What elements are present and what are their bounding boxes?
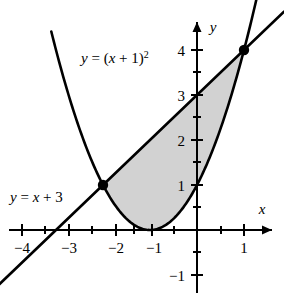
parabola-label-plusone: + 1) [115,50,143,67]
x-axis-label: x [258,201,266,217]
line-label-rest: + 3 [39,189,62,205]
shaded-region [103,50,244,230]
parabola-equation-label: y = (x + 1)2 [79,49,149,67]
x-tick-label-neg2: −2 [108,240,124,256]
y-axis-label: y [208,19,217,35]
plot-canvas: x y −4 −3 −2 −1 1 4 3 2 1 −1 y = (x + 1)… [0,0,284,301]
intersection-point-right [239,45,249,55]
y-tick-label-4: 4 [178,43,186,59]
x-tick-label-pos1: 1 [240,240,248,256]
parabola-label-exponent: 2 [144,49,149,60]
line-equation-label: y = x + 3 [8,189,63,205]
graph-figure: x y −4 −3 −2 −1 1 4 3 2 1 −1 y = (x + 1)… [0,0,284,301]
parabola-label-y: y [79,50,88,66]
intersection-point-left [98,180,108,190]
x-tick-label-neg3: −3 [61,240,77,256]
y-tick-label-neg1: −1 [169,268,185,284]
y-tick-label-2: 2 [178,133,186,149]
y-tick-label-3: 3 [178,88,186,104]
x-tick-label-neg1: −1 [146,240,162,256]
y-tick-label-1: 1 [178,178,186,194]
line-label-equals: = [17,189,33,205]
x-tick-label-neg4: −4 [14,240,30,256]
line-label-y: y [8,189,17,205]
parabola-label-equals: = ( [88,50,109,67]
y-axis-arrow [193,22,202,32]
x-axis-arrow [262,226,272,235]
